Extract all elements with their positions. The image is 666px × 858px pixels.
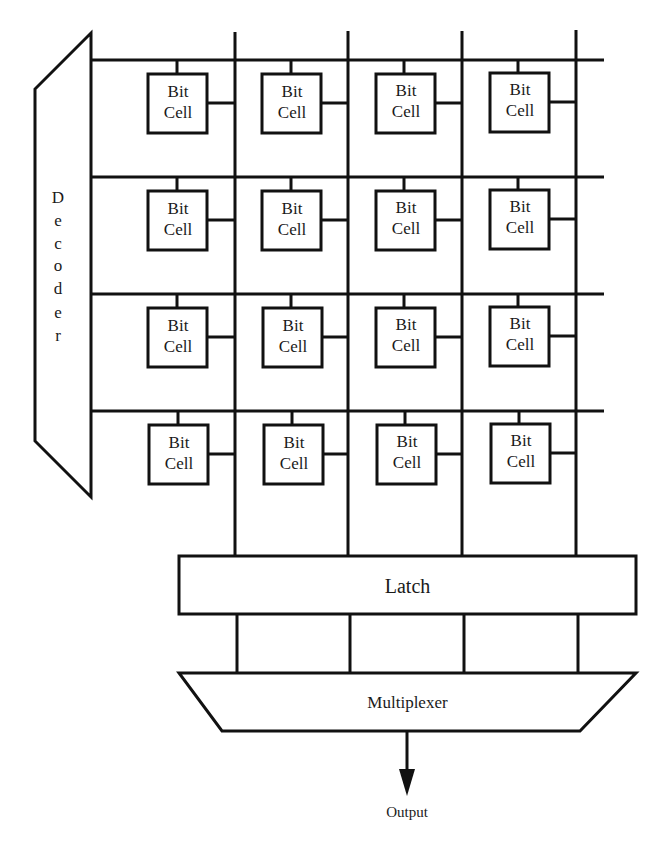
- decoder-letter: e: [48, 211, 68, 231]
- bit-cell-r2c2: BitCell: [262, 198, 322, 240]
- bit-cell-r1c2: BitCell: [262, 81, 322, 123]
- bit-cell-r4c2: BitCell: [264, 432, 324, 474]
- bit-cell-r3c1: BitCell: [148, 315, 208, 357]
- bit-cells: [148, 60, 576, 484]
- memory-array-diagram: D e c o d e r BitCell BitCell BitCell Bi…: [0, 0, 666, 858]
- bit-cell-r3c2: BitCell: [263, 315, 323, 357]
- bit-cell-r2c3: BitCell: [376, 197, 436, 239]
- bit-cell-r4c3: BitCell: [377, 431, 437, 473]
- decoder-letter: D: [48, 188, 68, 208]
- bit-cell-r1c1: BitCell: [148, 81, 208, 123]
- output-label: Output: [357, 805, 457, 820]
- decoder-letter: e: [48, 303, 68, 323]
- decoder-letter: r: [48, 326, 68, 346]
- multiplexer-label: Multiplexer: [179, 694, 636, 711]
- latch-label: Latch: [179, 576, 636, 596]
- bit-cell-r2c4: BitCell: [490, 196, 550, 238]
- bit-cell-r1c3: BitCell: [376, 80, 436, 122]
- decoder-letter: c: [48, 234, 68, 254]
- latch-mux-lines: [237, 614, 578, 673]
- decoder-letter: d: [48, 279, 68, 299]
- bit-cell-r4c4: BitCell: [491, 430, 551, 472]
- bit-cell-r3c4: BitCell: [490, 313, 550, 355]
- bit-cell-r3c3: BitCell: [376, 314, 436, 356]
- diagram-lines: [0, 0, 666, 858]
- bit-cell-r1c4: BitCell: [490, 79, 550, 121]
- bit-cell-r4c1: BitCell: [149, 432, 209, 474]
- output-arrowhead-icon: [399, 769, 415, 796]
- bit-cell-r2c1: BitCell: [148, 198, 208, 240]
- decoder-letter: o: [48, 256, 68, 276]
